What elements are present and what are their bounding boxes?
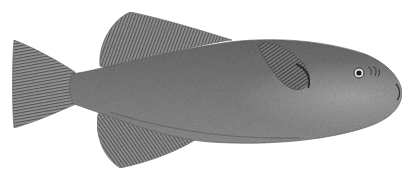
fish-illustration — [0, 0, 415, 181]
tail-fin — [13, 40, 77, 128]
pufferfish-engraving — [0, 0, 415, 181]
